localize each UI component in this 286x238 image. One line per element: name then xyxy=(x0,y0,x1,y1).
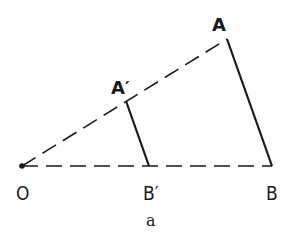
label-B: B xyxy=(266,182,278,204)
label-A-prime: A′ xyxy=(111,77,130,98)
segment-A-prime-B-prime xyxy=(126,101,149,166)
label-A: A xyxy=(212,14,226,35)
origin-point xyxy=(19,163,25,169)
label-O: O xyxy=(16,182,29,204)
ray-OA xyxy=(22,39,227,166)
label-B-prime: B′ xyxy=(143,182,159,204)
segment-AB xyxy=(227,39,272,166)
figure-caption: a xyxy=(146,211,156,230)
similar-triangles-diagram: A A′ O B′ B a xyxy=(0,0,286,238)
